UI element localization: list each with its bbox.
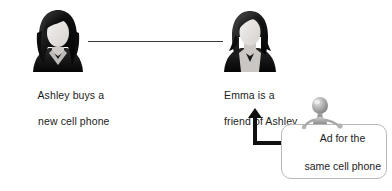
diagram-canvas: Ashley buys a new cell phone — [0, 0, 392, 191]
arrow-horizontal-shaft — [253, 141, 281, 145]
ashley-avatar — [27, 7, 89, 72]
emma-avatar — [219, 7, 281, 72]
ad-text-line2: same cell phone — [305, 160, 381, 172]
ad-callout-box[interactable]: Ad for the same cell phone — [281, 124, 387, 179]
emma-caption-line1: Emma is a — [224, 89, 275, 101]
ashley-caption: Ashley buys a new cell phone — [26, 76, 110, 141]
ashley-caption-line1: Ashley buys a — [38, 89, 105, 101]
ashley-caption-line2: new cell phone — [38, 115, 109, 127]
ashley-emma-friendship-line — [88, 41, 223, 42]
grey-mannequin-figure — [300, 96, 350, 132]
ad-text-line1: Ad for the — [320, 132, 366, 144]
